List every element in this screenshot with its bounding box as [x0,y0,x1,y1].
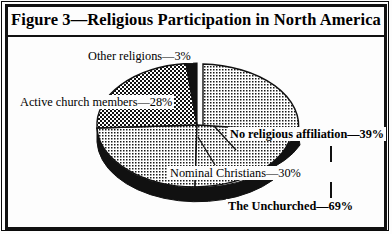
pie-slice-no-religious-affiliation[interactable] [203,64,299,133]
bracket-tick-lower [330,182,332,198]
pie-label-nominal-christians: Nominal Christians—30% [168,166,303,180]
bracket-tick-upper [330,146,332,162]
figure-container: Figure 3—Religious Participation in Nort… [0,0,392,234]
pie-label-other-religions: Other religions—3% [86,49,193,63]
pie-label-no-religious-affiliation: No religious affiliation—39% [228,127,386,141]
pie-annotation-the-unchurched: The Unchurched—69% [226,199,355,213]
pie-label-active-church-members: Active church members—28% [18,95,174,109]
